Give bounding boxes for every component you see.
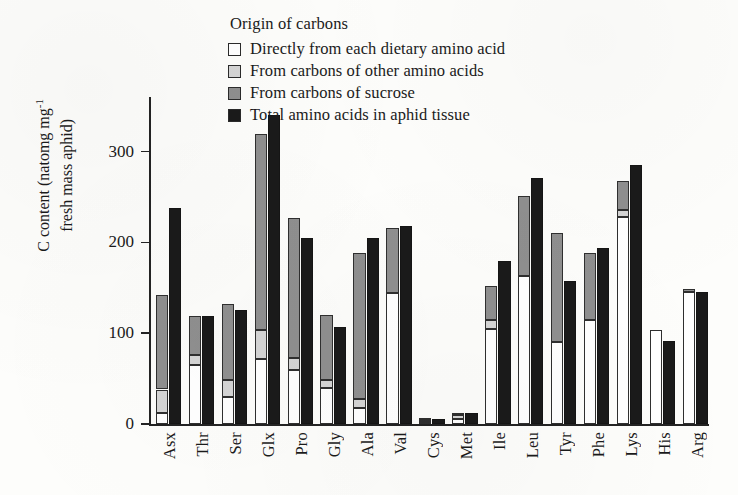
y-axis-tick-label-200: 200 <box>88 232 134 252</box>
y-axis-tick-labels: 0100200300 <box>84 0 134 495</box>
total-bar-arg <box>696 292 708 424</box>
bar-segment-ala-0 <box>353 408 365 424</box>
legend-label-other-amino-acids: From carbons of other amino acids <box>250 61 484 81</box>
stacked-bar-gly <box>320 315 332 424</box>
total-bar-gly <box>334 327 346 424</box>
bar-group-ile <box>485 97 510 424</box>
bar-segment-pro-2 <box>288 218 300 358</box>
stacked-bar-met <box>452 413 464 424</box>
bar-segment-phe-2 <box>584 253 596 319</box>
bar-segment-leu-2 <box>518 196 530 276</box>
y-axis-tick-label-300: 300 <box>88 142 134 162</box>
bar-segment-ser-0 <box>222 397 234 424</box>
bar-group-lys <box>617 97 642 424</box>
bar-group-ser <box>222 97 247 424</box>
legend-swatch-total-aphid-tissue <box>228 109 241 122</box>
bar-segment-leu-0 <box>518 276 530 424</box>
bar-segment-ile-0 <box>485 329 497 424</box>
x-axis-label-tyr: Tyr <box>556 432 576 455</box>
bar-segment-thr-2 <box>189 316 201 355</box>
bar-segment-asx-1 <box>156 390 168 414</box>
bar-group-ala <box>353 97 378 424</box>
bar-segment-val-0 <box>386 293 398 424</box>
legend-swatch-other-amino-acids <box>228 65 241 78</box>
total-bar-asx <box>169 208 181 424</box>
bar-group-arg <box>683 97 708 424</box>
bar-segment-phe-0 <box>584 320 596 424</box>
bar-segment-glx-0 <box>255 359 267 424</box>
bar-segment-lys-0 <box>617 217 629 424</box>
total-bar-ile <box>498 261 510 424</box>
bar-segment-glx-1 <box>255 330 267 358</box>
y-axis-title-line2: fresh mass aphid) <box>58 119 75 232</box>
chart-root: Origin of carbons Directly from each die… <box>0 0 738 495</box>
bar-segment-his-0 <box>650 330 662 424</box>
x-axis-label-ala: Ala <box>358 432 378 456</box>
bar-segment-lys-2 <box>617 181 629 209</box>
bar-segment-ile-1 <box>485 320 497 329</box>
stacked-bar-glx <box>255 134 267 424</box>
legend-label-direct-dietary: Directly from each dietary amino acid <box>250 39 505 59</box>
chart-legend: Origin of carbons Directly from each die… <box>228 14 505 126</box>
bar-segment-cys-0 <box>419 422 431 424</box>
legend-item-other-amino-acids: From carbons of other amino acids <box>228 60 505 82</box>
bar-group-his <box>650 97 675 424</box>
bar-segment-pro-0 <box>288 370 300 425</box>
bar-segment-gly-0 <box>320 388 332 424</box>
legend-item-sucrose: From carbons of sucrose <box>228 82 505 104</box>
x-axis-label-glx: Glx <box>259 432 279 457</box>
total-bar-tyr <box>564 281 576 424</box>
x-axis-label-val: Val <box>391 432 411 455</box>
legend-swatch-sucrose <box>228 87 241 100</box>
bar-segment-lys-1 <box>617 210 629 217</box>
bar-segment-ser-1 <box>222 380 234 396</box>
x-axis-label-leu: Leu <box>523 432 543 458</box>
bar-segment-asx-2 <box>156 295 168 389</box>
total-bar-pro <box>301 238 313 424</box>
bar-group-phe <box>584 97 609 424</box>
total-bar-met <box>465 413 477 424</box>
x-axis-label-met: Met <box>457 432 477 459</box>
y-axis-tick-label-0: 0 <box>88 414 134 434</box>
bar-segment-glx-2 <box>255 134 267 330</box>
bar-group-pro <box>288 97 313 424</box>
x-axis-label-arg: Arg <box>688 432 708 458</box>
bar-segment-thr-1 <box>189 355 201 365</box>
bar-segment-ala-1 <box>353 399 365 407</box>
total-bar-leu <box>531 178 543 424</box>
total-bar-cys <box>432 419 444 424</box>
x-axis-label-asx: Asx <box>160 432 180 459</box>
x-axis-label-ile: Ile <box>490 432 510 450</box>
stacked-bar-val <box>386 228 398 424</box>
bar-group-tyr <box>551 97 576 424</box>
x-axis-label-cys: Cys <box>424 432 444 458</box>
x-axis-line <box>149 424 709 426</box>
total-bar-lys <box>630 165 642 424</box>
stacked-bar-ser <box>222 304 234 424</box>
bar-group-thr <box>189 97 214 424</box>
legend-title: Origin of carbons <box>230 14 505 34</box>
bar-segment-met-0 <box>452 419 464 424</box>
stacked-bar-tyr <box>551 233 563 424</box>
bar-segment-asx-0 <box>156 413 168 424</box>
total-bar-phe <box>597 248 609 424</box>
bar-group-leu <box>518 97 543 424</box>
y-axis-title: C content (natomg mg-1 fresh mass aphid) <box>32 50 79 300</box>
bar-segment-val-2 <box>386 228 398 293</box>
total-bar-his <box>663 341 675 424</box>
stacked-bar-pro <box>288 218 300 424</box>
total-bar-glx <box>268 115 280 424</box>
bar-group-glx <box>255 97 280 424</box>
x-axis-label-ser: Ser <box>226 432 246 455</box>
x-axis-label-his: His <box>655 432 675 456</box>
stacked-bar-cys <box>419 419 431 424</box>
legend-label-total-aphid-tissue: Total amino acids in aphid tissue <box>250 105 470 125</box>
bar-group-cys <box>419 97 444 424</box>
legend-item-total-aphid-tissue: Total amino acids in aphid tissue <box>228 104 505 126</box>
total-bar-ala <box>367 238 379 424</box>
stacked-bar-arg <box>683 289 695 424</box>
bar-series-container <box>149 97 709 424</box>
bar-segment-gly-2 <box>320 315 332 379</box>
bar-group-asx <box>156 97 181 424</box>
y-axis-title-superscript: -1 <box>33 99 45 108</box>
